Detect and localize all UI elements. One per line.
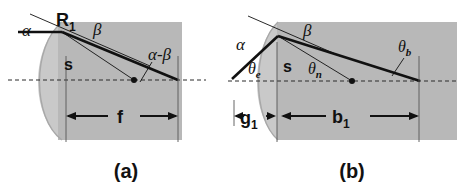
label-alpha-b: α [236,35,246,54]
label-theta-n-subscript-b: n [316,68,322,80]
label-g1-subscript-b: 1 [251,118,258,132]
label-b1-base-b: b [332,107,343,127]
focal-point-dot-b [349,78,355,84]
label-alpha-a: α [22,21,32,40]
label-s-a: s [64,56,73,73]
label-beta-b: β [302,21,312,40]
caption-panel-b: (b) [339,160,365,182]
label-theta-e-base-b: θ [248,60,256,77]
label-theta-e-subscript-b: e [256,68,261,80]
figure-canvas: α R1 β α-β s f (a) [0,0,457,187]
label-R1-base-a: R [56,10,69,30]
label-b1-subscript-b: 1 [343,117,350,131]
label-alpha-minus-beta-a: α-β [148,45,172,64]
label-beta-a: β [92,20,102,39]
focal-point-dot-a [131,77,137,83]
label-s-b: s [283,58,292,75]
label-theta-n-base-b: θ [308,60,316,77]
label-g1-base-b: g [240,108,251,128]
label-theta-b-base-b: θ [398,38,406,55]
label-theta-b-subscript-b: b [406,46,412,58]
caption-panel-a: (a) [114,160,138,182]
label-R1-subscript-a: 1 [69,20,76,34]
label-f-a: f [117,107,124,127]
optics-ray-diagram-figure: α R1 β α-β s f (a) [0,0,457,187]
